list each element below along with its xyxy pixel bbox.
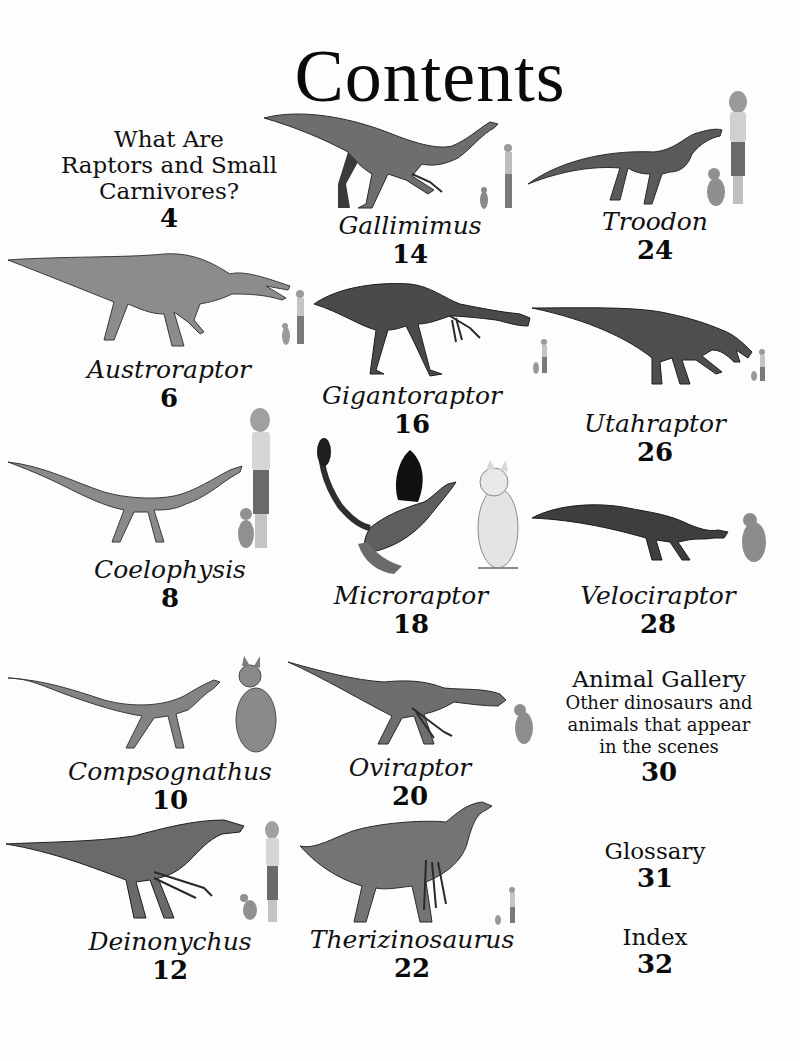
gigantoraptor-icon [310, 278, 550, 380]
therizinosaurus-icon [296, 800, 526, 928]
page-number: 12 [70, 956, 270, 984]
cat-icon [238, 508, 254, 548]
girl-icon [296, 290, 304, 344]
cat-icon [236, 656, 276, 752]
dinosaur-name: Troodon [580, 208, 730, 236]
oviraptor-icon [284, 658, 544, 750]
contents-entry-utahraptor[interactable]: Utahraptor 26 [570, 410, 740, 466]
dinosaur-name: Velociraptor [568, 582, 748, 610]
deinonychus-icon [4, 814, 286, 926]
gallimimus-icon [262, 104, 522, 212]
entry-description-line: Other dinosaurs and [544, 692, 774, 714]
girl-icon [509, 887, 515, 923]
page-number: 10 [50, 786, 290, 814]
dinosaur-name: Microraptor [316, 582, 506, 610]
entry-title-line: Raptors and Small [40, 152, 298, 178]
contents-entry-therizinosaurus[interactable]: Therizinosaurus 22 [294, 926, 530, 982]
page-number: 6 [64, 384, 274, 412]
contents-entry-glossary[interactable]: Glossary 31 [580, 838, 730, 892]
contents-entry-index[interactable]: Index 32 [580, 924, 730, 978]
entry-description-line: in the scenes [544, 736, 774, 758]
page-number: 30 [544, 758, 774, 786]
page-number: 20 [320, 782, 500, 810]
girl-icon [250, 408, 270, 548]
austroraptor-illustration [4, 250, 308, 346]
contents-entry-intro[interactable]: What Are Raptors and Small Carnivores? 4 [40, 126, 298, 232]
entry-title-line: Carnivores? [40, 178, 298, 204]
contents-entry-gallimimus[interactable]: Gallimimus 14 [310, 212, 510, 268]
dinosaur-name: Coelophysis [70, 556, 270, 584]
page-number: 4 [40, 204, 298, 232]
entry-title: Glossary [580, 838, 730, 864]
dinosaur-name: Utahraptor [570, 410, 740, 438]
page-number: 18 [316, 610, 506, 638]
oviraptor-illustration [284, 658, 544, 750]
deinonychus-illustration [4, 814, 286, 926]
cat-icon [282, 323, 290, 345]
gallimimus-illustration [262, 104, 522, 212]
cat-icon [495, 915, 501, 925]
cat-icon [707, 168, 725, 206]
microraptor-illustration [314, 432, 524, 578]
coelophysis-icon [4, 406, 294, 552]
microraptor-icon [314, 432, 524, 578]
contents-entry-austroraptor[interactable]: Austroraptor 6 [64, 356, 274, 412]
page-number: 16 [306, 410, 518, 438]
page-number: 14 [310, 240, 510, 268]
girl-icon [729, 91, 747, 204]
contents-entry-microraptor[interactable]: Microraptor 18 [316, 582, 506, 638]
girl-icon [265, 821, 279, 922]
dinosaur-name: Deinonychus [70, 928, 270, 956]
dinosaur-name: Gallimimus [310, 212, 510, 240]
contents-page: Contents [0, 0, 800, 1061]
dinosaur-name: Compsognathus [50, 758, 290, 786]
velociraptor-icon [528, 494, 778, 564]
troodon-illustration [524, 88, 764, 210]
contents-entry-oviraptor[interactable]: Oviraptor 20 [320, 754, 500, 810]
page-number: 31 [580, 864, 730, 892]
troodon-icon [524, 88, 764, 210]
utahraptor-icon [530, 300, 770, 386]
contents-entry-animal-gallery[interactable]: Animal Gallery Other dinosaurs and anima… [544, 666, 774, 786]
dinosaur-name: Oviraptor [320, 754, 500, 782]
contents-entry-velociraptor[interactable]: Velociraptor 28 [568, 582, 748, 638]
contents-entry-gigantoraptor[interactable]: Gigantoraptor 16 [306, 382, 518, 438]
cat-icon [514, 704, 533, 744]
dinosaur-name: Gigantoraptor [306, 382, 518, 410]
contents-entry-troodon[interactable]: Troodon 24 [580, 208, 730, 264]
dinosaur-name: Austroraptor [64, 356, 274, 384]
entry-title: Animal Gallery [544, 666, 774, 692]
therizinosaurus-illustration [296, 800, 526, 928]
coelophysis-illustration [4, 406, 294, 552]
velociraptor-illustration [528, 494, 778, 564]
austroraptor-icon [4, 250, 308, 346]
cat-icon [478, 460, 518, 568]
utahraptor-illustration [530, 300, 770, 386]
compsognathus-icon [4, 650, 280, 754]
page-number: 24 [580, 236, 730, 264]
dinosaur-name: Therizinosaurus [294, 926, 530, 954]
girl-icon [504, 144, 512, 208]
gigantoraptor-illustration [310, 278, 550, 380]
compsognathus-illustration [4, 650, 280, 754]
page-number: 32 [580, 950, 730, 978]
cat-icon [240, 894, 257, 920]
entry-title-line: What Are [40, 126, 298, 152]
cat-icon [751, 371, 757, 381]
entry-description-line: animals that appear [544, 714, 774, 736]
contents-entry-compsognathus[interactable]: Compsognathus 10 [50, 758, 290, 814]
page-number: 26 [570, 438, 740, 466]
page-number: 28 [568, 610, 748, 638]
contents-entry-coelophysis[interactable]: Coelophysis 8 [70, 556, 270, 612]
cat-icon [480, 187, 488, 209]
entry-title: Index [580, 924, 730, 950]
girl-icon [759, 349, 765, 381]
page-number: 22 [294, 954, 530, 982]
page-number: 8 [70, 584, 270, 612]
cat-icon [742, 513, 766, 562]
contents-entry-deinonychus[interactable]: Deinonychus 12 [70, 928, 270, 984]
